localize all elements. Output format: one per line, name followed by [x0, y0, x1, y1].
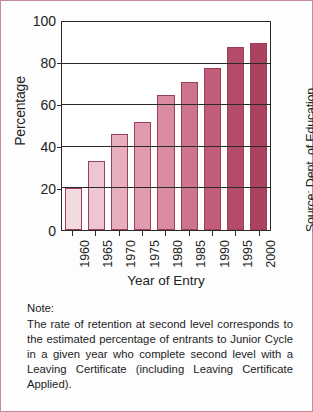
- gridline-40: [62, 146, 270, 147]
- bar-2000[interactable]: [250, 43, 267, 230]
- bar-1970[interactable]: [111, 134, 128, 230]
- gridline-20: [62, 187, 270, 188]
- y-tick-mark-60: [57, 105, 61, 106]
- bar-slot: [62, 22, 85, 230]
- chart-region: Percentage Source: Dept. of Education 02…: [1, 3, 312, 299]
- bar-series: [62, 22, 270, 230]
- x-tick-mark-1965: [95, 231, 96, 236]
- y-tick-mark-20: [57, 189, 61, 190]
- note-heading: Note:: [27, 301, 293, 316]
- x-tick-mark-1960: [72, 231, 73, 236]
- x-tick-mark-2000: [259, 231, 260, 236]
- x-tick-mark-1970: [119, 231, 120, 236]
- bar-1975[interactable]: [134, 122, 151, 230]
- y-tick-mark-80: [57, 63, 61, 64]
- y-tick-label-20: 20: [16, 182, 56, 196]
- y-tick-label-40: 40: [16, 140, 56, 154]
- x-tick-mark-1985: [189, 231, 190, 236]
- bar-1965[interactable]: [88, 161, 105, 230]
- bar-1995[interactable]: [227, 47, 244, 230]
- bar-slot: [247, 22, 270, 230]
- bar-slot: [178, 22, 201, 230]
- bar-1960[interactable]: [65, 188, 82, 230]
- note-body: The rate of retention at second level co…: [27, 317, 293, 392]
- bar-1990[interactable]: [204, 68, 221, 230]
- bar-slot: [108, 22, 131, 230]
- x-tick-mark-1990: [212, 231, 213, 236]
- x-axis-title: Year of Entry: [61, 273, 271, 288]
- bar-slot: [224, 22, 247, 230]
- y-tick-label-80: 80: [16, 56, 56, 70]
- retention-chart-figure: Percentage Source: Dept. of Education 02…: [0, 0, 313, 412]
- y-tick-label-100: 100: [16, 14, 56, 28]
- bar-slot: [201, 22, 224, 230]
- y-tick-mark-40: [57, 147, 61, 148]
- x-tick-mark-1980: [165, 231, 166, 236]
- x-tick-mark-1995: [235, 231, 236, 236]
- y-tick-label-0: 0: [16, 224, 56, 238]
- source-label: Source: Dept. of Education: [304, 45, 313, 275]
- bar-1980[interactable]: [157, 95, 174, 230]
- gridline-60: [62, 104, 270, 105]
- bar-slot: [154, 22, 177, 230]
- plot-wrapper: 020406080100 196019651970197519801985199…: [61, 21, 271, 231]
- y-tick-label-60: 60: [16, 98, 56, 112]
- bar-slot: [131, 22, 154, 230]
- plot-area: [61, 21, 271, 231]
- x-tick-mark-1975: [142, 231, 143, 236]
- bar-slot: [85, 22, 108, 230]
- gridline-80: [62, 63, 270, 64]
- note-block: Note: The rate of retention at second le…: [27, 301, 293, 392]
